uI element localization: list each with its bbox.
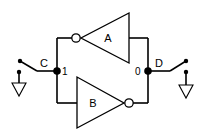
switch-d-lever <box>170 61 186 71</box>
latch-diagram: A B 1 C 0 D <box>0 0 204 137</box>
switch-d-contact-top <box>184 59 188 63</box>
switch-c[interactable] <box>17 59 57 74</box>
switch-c-contact-top <box>18 59 22 63</box>
ground-icon <box>12 72 26 96</box>
gate-b-bubble <box>125 99 133 107</box>
gate-a-bubble <box>72 34 80 42</box>
node-d-value: 0 <box>135 66 141 77</box>
gate-a-label: A <box>104 32 112 44</box>
switch-c-lever <box>20 61 37 71</box>
gate-b-label: B <box>89 97 96 109</box>
gate-b <box>77 77 124 128</box>
node-c-value: 1 <box>62 66 68 77</box>
node-c-label: C <box>40 57 48 69</box>
ground-icon <box>179 72 193 98</box>
node-d-label: D <box>155 57 163 69</box>
